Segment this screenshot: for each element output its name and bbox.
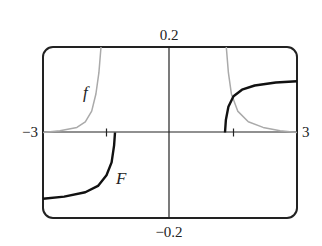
series-label-F: F xyxy=(115,169,127,188)
chart: 0.2 −0.2 −3 3 fF xyxy=(0,0,322,246)
x-tick-label-right: 3 xyxy=(302,124,310,140)
y-tick-label-bottom: −0.2 xyxy=(155,224,182,240)
series-F-curve xyxy=(43,133,115,199)
series-f-curve xyxy=(226,47,297,133)
y-tick-label-top: 0.2 xyxy=(160,27,179,43)
series-f-curve xyxy=(43,47,101,133)
x-tick-label-left: −3 xyxy=(22,124,38,140)
series-label-f: f xyxy=(83,83,90,102)
